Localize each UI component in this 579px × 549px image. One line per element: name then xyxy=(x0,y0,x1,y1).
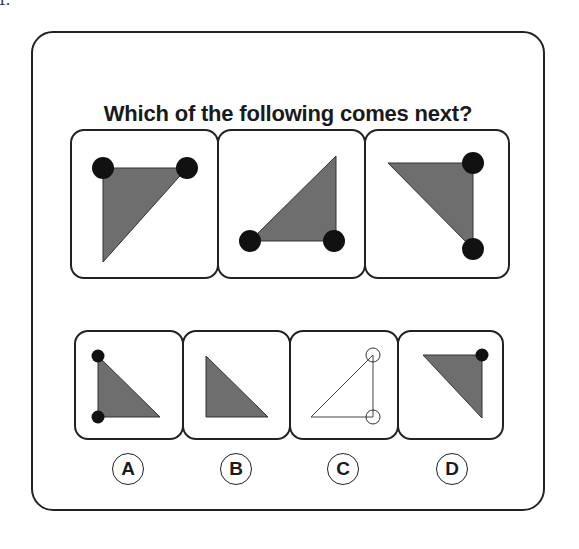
option-d-figure xyxy=(399,332,506,442)
option-c-label[interactable]: C xyxy=(327,453,359,485)
option-a-figure xyxy=(76,332,186,442)
option-c-frame[interactable] xyxy=(289,330,399,440)
sequence-frame-2 xyxy=(217,129,366,279)
option-b-frame[interactable] xyxy=(182,330,291,440)
triangle-dots-figure-1 xyxy=(72,131,221,281)
question-number: 1. xyxy=(0,0,10,9)
sequence-frame-3 xyxy=(364,129,510,279)
option-b-label[interactable]: B xyxy=(220,453,252,485)
question-title: Which of the following comes next? xyxy=(33,101,543,127)
option-c-figure xyxy=(291,332,401,442)
triangle-dots-figure-3 xyxy=(366,131,512,281)
option-b-figure xyxy=(184,332,293,442)
option-d-frame[interactable] xyxy=(397,330,504,440)
triangle-dots-figure-2 xyxy=(219,131,368,281)
option-a-frame[interactable] xyxy=(74,330,184,440)
option-d-label[interactable]: D xyxy=(436,453,468,485)
sequence-frame-1 xyxy=(70,129,219,279)
option-a-label[interactable]: A xyxy=(112,453,144,485)
